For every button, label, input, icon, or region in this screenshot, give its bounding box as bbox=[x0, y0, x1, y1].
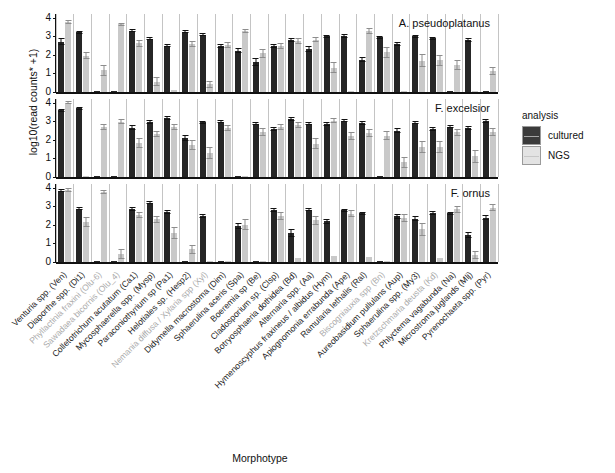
chart-root: log10(read counts* +1) 01234A. pseudopla… bbox=[0, 0, 615, 473]
legend-label-cultured: cultured bbox=[548, 130, 584, 141]
x-axis-title: Morphotype bbox=[0, 452, 520, 464]
legend-swatch-cultured bbox=[522, 126, 541, 145]
legend-item-ngs[interactable]: NGS bbox=[522, 146, 612, 165]
legend-label-ngs: NGS bbox=[548, 150, 570, 161]
x-tick-labels: Venturia spp. (Ven)Diaporthe spp. (Di1)P… bbox=[0, 0, 615, 473]
legend-item-cultured[interactable]: cultured bbox=[522, 126, 612, 145]
legend-title: analysis bbox=[522, 110, 612, 121]
legend-swatch-ngs bbox=[522, 146, 541, 165]
legend: analysis cultured NGS bbox=[522, 110, 612, 166]
